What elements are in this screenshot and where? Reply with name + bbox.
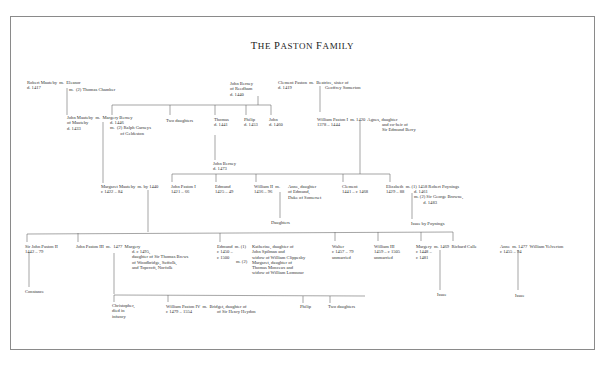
node-philip-iv: Philip [300, 304, 311, 309]
node-john-berney-1460: John d. 1460 [269, 117, 283, 128]
node-margaret-mauteby: Margaret Mauteby m. by 1440 c 1422 – 84 [101, 184, 158, 195]
node-constance: Constance [25, 289, 44, 294]
node-anne-yelverton: Anne m. 1477 William Yelverton c 1455 – … [500, 244, 563, 255]
node-edmund-1425: Edmund 1425 – 49 [215, 184, 233, 195]
node-john-berney-1473: John Berney d. 1473 [213, 161, 236, 172]
node-edmund-wives: Katherine, daughter of John Spilman and … [252, 244, 305, 276]
node-philip-berney: Philip d. 1453 [244, 117, 258, 128]
node-geoffrey-somerton: Geoffrey Somerton [325, 85, 361, 90]
node-clement-1441: Clement 1441 – c 1468 [342, 184, 368, 195]
node-anne-somerset: Anne, daughter of Edmund, Duke of Somers… [288, 184, 321, 200]
node-issue-poynings: Issue by Poynings [411, 221, 444, 226]
node-two-daughters-iii: Two daughters [328, 304, 355, 309]
node-william-ii: William II m. 1436 – 96 [254, 184, 280, 195]
node-issue-calle: Issue [437, 292, 446, 297]
node-walter: Walter c 1457 – 79 unmarried [332, 244, 354, 260]
node-bridget-heydon-detail: of Sir Henry Heydon [217, 309, 256, 314]
node-sir-john-paston-ii: Sir John Paston II 1442 – 79 [25, 244, 58, 255]
node-eleanor-remarriage: m. (2) Thomas Chamber [69, 87, 115, 92]
node-john-paston-iii: John Paston III m. 1477 Margery [76, 244, 140, 249]
node-agnes-berry-detail: and co-heir of Sir Edmund Berry [382, 122, 416, 133]
node-john-paston-i: John Paston I 1421 – 66 [171, 184, 196, 195]
node-margery-berney-detail: d. 1446 m. (2) Ralph Garneys of Geldesto… [110, 120, 151, 136]
node-thomas-berney: Thomas d. 1441 [214, 117, 229, 128]
node-john-berney-reedham: John Berney of Reedham d. 1440 [230, 81, 253, 97]
node-christopher: Christopher, died in infancy [112, 303, 135, 319]
node-margery-brews-detail: d. c 1495, daughter of Sir Thomas Brews … [132, 249, 188, 270]
node-elizabeth-detail: d. 1461 m. (2) Sir George Browne, d. 148… [414, 189, 463, 205]
node-issue-yelverton: Issue [515, 293, 524, 298]
node-margery-calle: Margery m. 1469 Richard Calle c 1448 – c… [416, 244, 477, 260]
node-edmund-m2: m. (2) [236, 259, 247, 264]
node-william-iii: William III 1459 – c 1505 unmarried [374, 244, 400, 260]
node-daughters-william-ii: Daughters [271, 220, 290, 225]
node-two-daughters-berney: Two daughters [166, 118, 193, 123]
node-edmund-1450: Edmund m. (1) c 1450 – c 1500 [217, 244, 246, 260]
